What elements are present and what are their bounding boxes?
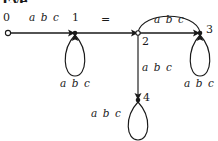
self-loop-node-4 — [128, 102, 148, 140]
edge-2-to-4-label: a b c — [142, 62, 173, 73]
node-4-marker[interactable] — [136, 98, 141, 103]
equals-sign-label: = — [101, 14, 110, 25]
node-0-marker[interactable] — [5, 30, 10, 35]
edge-0-to-1-label: a b c — [29, 12, 60, 23]
node-1-marker[interactable] — [73, 31, 78, 36]
node-0-label: 0 — [3, 12, 10, 23]
node-3-marker[interactable] — [198, 31, 203, 36]
node-1-label: 1 — [72, 12, 79, 23]
self-loop-node-1 — [65, 35, 85, 76]
node-2-marker[interactable] — [136, 31, 140, 35]
state-diagram-figure: Eye 0 1 2 3 4 = a — [0, 0, 218, 141]
self-loop-node-3 — [190, 35, 210, 76]
node-2-label: 2 — [142, 36, 149, 47]
self-loop-node-1-label: a b c — [60, 78, 91, 89]
edge-2-to-3-arc-label: a b c — [154, 14, 185, 25]
self-loop-node-4-label: a b c — [91, 108, 122, 119]
self-loop-node-3-label: a b c — [184, 78, 215, 89]
node-4-label: 4 — [143, 92, 150, 103]
node-3-label: 3 — [206, 24, 213, 35]
